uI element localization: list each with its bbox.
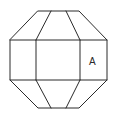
bottom-right-diagonal (66, 80, 80, 108)
bottom-trapezoids (36, 80, 80, 108)
face-label-a: A (89, 56, 96, 67)
top-left-diagonal (36, 11, 51, 40)
bottom-left-diagonal (36, 80, 51, 108)
octagon-diagram: A (0, 0, 114, 120)
top-trapezoids (36, 11, 80, 40)
top-right-diagonal (66, 11, 80, 40)
